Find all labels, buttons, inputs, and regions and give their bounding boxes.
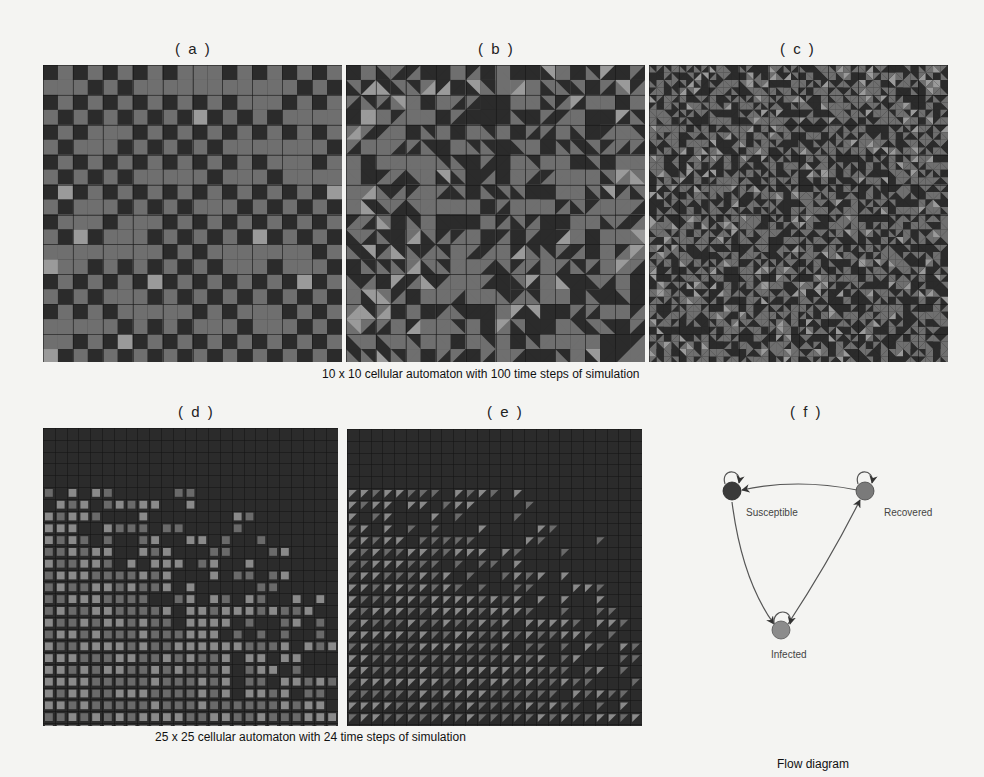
edge-recovered-to-susceptible	[742, 484, 857, 490]
node-label-recovered: Recovered	[884, 507, 932, 518]
panel-label-f: ( f )	[790, 403, 823, 420]
edge-susceptible-to-infected	[732, 502, 774, 624]
node-label-infected: Infected	[771, 649, 807, 660]
panel-label-c: ( c )	[780, 40, 816, 57]
panel-label-a: ( a )	[175, 40, 212, 57]
automaton-panel-a	[43, 65, 342, 362]
flow-caption: Flow diagram	[777, 757, 849, 771]
node-label-susceptible: Susceptible	[746, 507, 798, 518]
automaton-panel-c	[649, 65, 948, 362]
flow-diagram: Susceptible Recovered Infected	[690, 440, 950, 660]
panel-label-e: ( e )	[487, 403, 524, 420]
automaton-panel-b	[346, 65, 645, 362]
node-recovered	[856, 482, 874, 500]
node-infected	[772, 621, 790, 639]
bottom-row-caption: 25 x 25 cellular automaton with 24 time …	[155, 730, 466, 744]
top-row-caption: 10 x 10 cellular automaton with 100 time…	[322, 367, 640, 381]
automaton-panel-d	[43, 428, 338, 726]
panel-label-b: ( b )	[478, 40, 515, 57]
automaton-panel-e	[347, 429, 642, 726]
node-susceptible	[723, 482, 741, 500]
edge-infected-to-recovered	[788, 500, 860, 624]
panel-label-d: ( d )	[178, 403, 215, 420]
